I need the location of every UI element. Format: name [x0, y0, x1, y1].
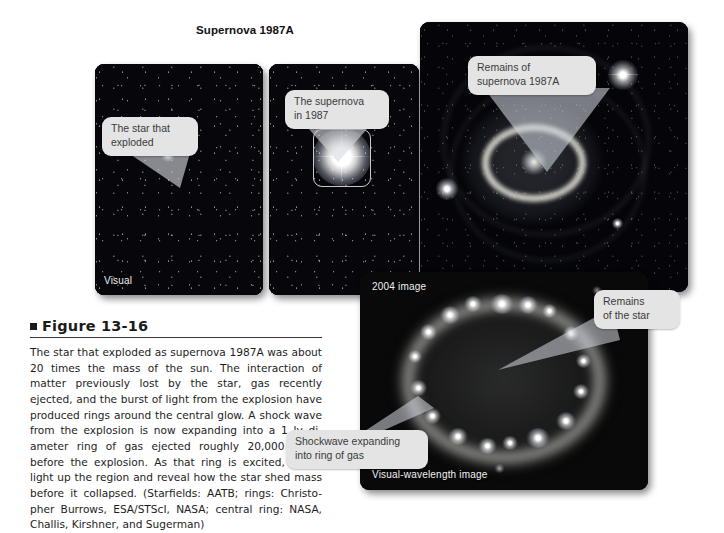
ring-hotspot	[478, 438, 497, 454]
figure-title: Supernova 1987A	[95, 24, 395, 36]
ring-hotspot	[464, 296, 482, 312]
ring-hotspot	[556, 412, 576, 430]
callout-remains-of-the-star[interactable]: Remains of the star	[594, 290, 680, 329]
callout-shockwave-expanding[interactable]: Shockwave expanding into ring of gas	[286, 430, 428, 469]
callout-remains-of-supernova-1987a[interactable]: Remains of supernova 1987A	[468, 56, 596, 95]
ring-hotspot	[408, 350, 422, 363]
callout-star-that-exploded[interactable]: The star that exploded	[102, 117, 198, 156]
ring-hotspot	[526, 428, 550, 448]
ring-hotspot	[420, 324, 437, 340]
ring-hotspot	[440, 306, 460, 324]
figure-heading-rule	[30, 337, 322, 338]
ring-hotspot-faint-outer	[494, 464, 505, 473]
ring-hotspot	[573, 384, 589, 399]
figure-caption-block: Figure 13-16 The star that exploded as s…	[30, 318, 322, 533]
panel-corner-label-visual-wavelength: Visual-wavelength image	[372, 469, 488, 480]
figure-caption-text: The star that exploded as supernova 1987…	[30, 345, 322, 533]
panel-corner-label-visual: Visual	[104, 275, 132, 286]
figure-bullet-square	[30, 323, 37, 330]
panel-corner-label-2004-image: 2004 image	[372, 281, 426, 292]
field-star-small-lower-right	[612, 218, 623, 229]
ring-hotspot	[502, 436, 518, 450]
figure-heading-text: Figure 13-16	[42, 318, 148, 334]
figure-heading: Figure 13-16	[30, 318, 322, 334]
field-star-lower-left	[436, 178, 458, 200]
callout-the-supernova-in-1987[interactable]: The supernova in 1987	[285, 90, 389, 129]
